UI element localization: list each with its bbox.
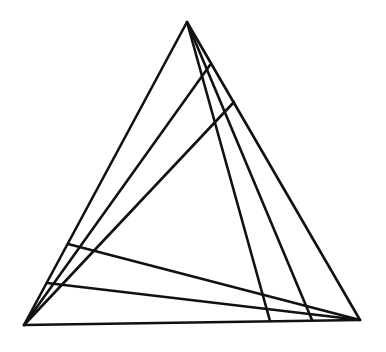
cevian-line-a-0 [187, 22, 270, 321]
cevian-line-c-5 [47, 283, 360, 320]
main-triangle [24, 22, 360, 325]
triangle-diagram [0, 0, 386, 352]
diagram-canvas [0, 0, 386, 352]
cevian-line-b-2 [24, 65, 210, 325]
cevian-line-a-1 [187, 22, 312, 320]
cevian-line-c-4 [68, 244, 360, 320]
cevian-lines [24, 22, 360, 325]
